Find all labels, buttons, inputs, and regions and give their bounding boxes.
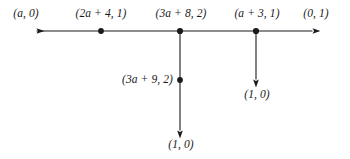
label-node-1-0-right: (1, 0) — [244, 89, 270, 101]
label-node-3a8-2: (3a + 8, 2) — [155, 8, 206, 20]
node-dot-3a9-2 — [177, 77, 183, 83]
node-dot-2a4-1 — [98, 28, 104, 34]
label-node-2a4-1: (2a + 4, 1) — [75, 8, 126, 20]
label-node-0-1: (0, 1) — [303, 8, 329, 20]
label-node-a3-1: (a + 3, 1) — [234, 8, 279, 20]
node-dot-a3-1 — [253, 28, 259, 34]
label-node-3a9-2: (3a + 9, 2) — [122, 74, 173, 86]
diagram-canvas: (a, 0) (2a + 4, 1) (3a + 8, 2) (a + 3, 1… — [0, 0, 350, 159]
label-node-1-0-center: (1, 0) — [168, 139, 194, 151]
label-node-a-0: (a, 0) — [13, 8, 39, 20]
node-dot-3a8-2 — [177, 28, 183, 34]
diagram-graphics — [0, 0, 350, 159]
